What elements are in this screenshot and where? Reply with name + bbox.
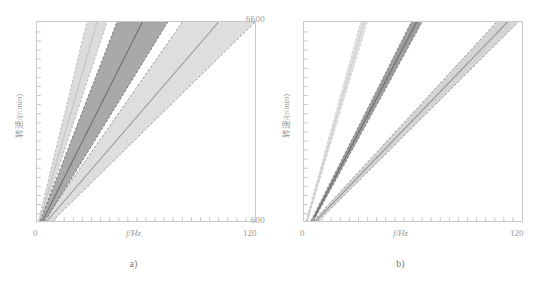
plot-area-b bbox=[303, 21, 523, 222]
x-axis-title-b: f/Hz bbox=[267, 228, 534, 238]
plot-canvas-a bbox=[37, 22, 255, 221]
envelope-upper-order-line-1-b bbox=[306, 22, 361, 221]
panel-caption-b: b) bbox=[267, 258, 534, 269]
x-axis-title-a: f/Hz bbox=[0, 228, 267, 238]
center-order-line-3-b bbox=[316, 22, 508, 221]
center-order-line-2-b bbox=[312, 22, 416, 221]
y-axis-title-b: 转速/(r/min) bbox=[269, 10, 281, 90]
plot-canvas-b bbox=[304, 22, 522, 221]
panel-b: 6600 600 转速/(r/min) bbox=[267, 0, 534, 286]
y-axis-title-a: 转速/(r/min) bbox=[2, 10, 14, 90]
center-order-line-1-b bbox=[307, 22, 364, 221]
x-tick-label-right-b: 120 bbox=[510, 228, 524, 238]
y-axis-title-text-b: 转速/(r/min) bbox=[279, 94, 291, 138]
panel-a: 6600 600 转速/(r/min) bbox=[0, 0, 267, 286]
envelope-upper-order-line-2-b bbox=[311, 22, 411, 221]
plot-area-a bbox=[36, 21, 256, 222]
y-tick-label-top-b: 6600 bbox=[246, 14, 265, 24]
y-axis-title-text-a: 转速/(r/min) bbox=[12, 94, 24, 138]
y-tick-label-bottom-b: 600 bbox=[251, 215, 265, 225]
figure-two-panel-order-plots: 6600 600 转速/(r/min) bbox=[0, 0, 535, 286]
panel-caption-a: a) bbox=[0, 258, 267, 269]
x-tick-label-right-a: 120 bbox=[243, 228, 257, 238]
